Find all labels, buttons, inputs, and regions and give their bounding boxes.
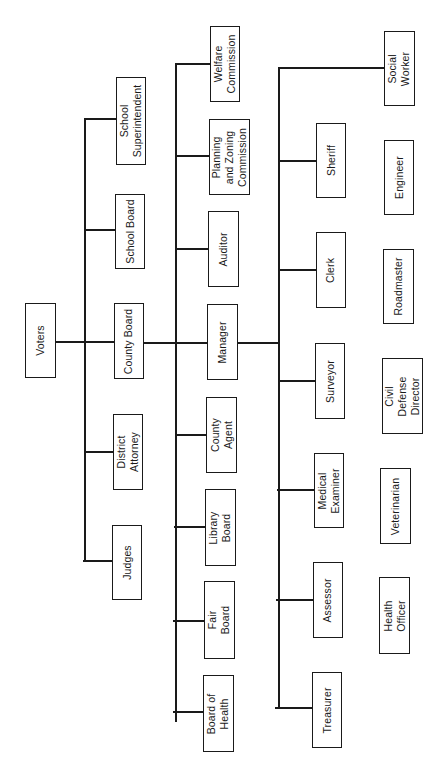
connector-trunk3 [278, 67, 280, 709]
connector-trunk2-fair [173, 620, 204, 622]
node-label: Medical Examiner [316, 468, 342, 513]
node-school-board: School Board [115, 194, 145, 269]
node-label: Treasurer [321, 687, 334, 733]
connector-trunk3-clerk [278, 269, 316, 271]
connector-trunk2-library [174, 526, 205, 528]
node-welfare-commission: Welfare Commission [210, 26, 240, 102]
node-board-of-health: Board of Health [203, 675, 234, 752]
node-engineer: Engineer [384, 140, 414, 215]
node-medical-examiner: Medical Examiner [314, 453, 344, 528]
org-chart: VotersSchool SuperintendentSchool BoardC… [0, 0, 437, 774]
node-label: Fair Board [207, 606, 233, 635]
connector-trunk2-manager [175, 342, 207, 344]
node-label: Sheriff [325, 145, 338, 176]
connector-trunk2-health [173, 711, 203, 713]
node-label: Assessor [322, 578, 335, 622]
connector-trunk2 [175, 63, 177, 722]
connector-manager-to-trunk3 [238, 342, 279, 344]
node-fair-board: Fair Board [204, 581, 235, 659]
node-label: Roadmaster [392, 257, 405, 315]
node-planning-zoning-commission: Planning and Zoning Commission [209, 119, 250, 195]
node-school-superintendent: School Superintendent [116, 77, 146, 165]
node-label: Social Worker [387, 51, 413, 85]
node-label: County Board [123, 308, 136, 373]
connector-trunk3-surveyor [278, 380, 315, 382]
node-label: District Attorney [115, 432, 141, 472]
node-health-officer: Health Officer [379, 577, 410, 654]
node-label: Engineer [393, 156, 406, 199]
connector-trunk1-county-board [84, 341, 115, 343]
connector-trunk3-social-worker [278, 67, 384, 69]
node-district-attorney: District Attorney [113, 414, 143, 490]
connector-trunk3-medical-examiner [277, 489, 314, 491]
node-label: Auditor [217, 232, 230, 266]
node-county-board: County Board [114, 303, 144, 379]
connector-county-board-to-trunk2 [144, 342, 176, 344]
connector-trunk3-treasurer [275, 707, 312, 709]
connector-trunk1 [84, 118, 86, 562]
node-label: Veterinarian [389, 477, 402, 534]
node-label: Manager [216, 321, 229, 363]
node-label: School Superintendent [118, 85, 144, 158]
node-label: Judges [121, 545, 134, 579]
node-label: County Agent [209, 418, 235, 452]
node-label: School Board [124, 199, 137, 263]
node-label: Board of Health [206, 693, 232, 734]
node-county-agent: County Agent [206, 397, 237, 473]
node-roadmaster: Roadmaster [383, 249, 414, 324]
node-social-worker: Social Worker [384, 31, 415, 106]
node-judges: Judges [112, 525, 142, 600]
node-sheriff: Sheriff [316, 123, 346, 198]
node-label: Surveyor [324, 360, 337, 403]
node-library-board: Library Board [205, 489, 236, 566]
node-auditor: Auditor [208, 211, 239, 287]
connector-trunk2-county-agent [175, 434, 206, 436]
connector-trunk1-district-attorney [84, 451, 114, 453]
node-surveyor: Surveyor [315, 343, 345, 419]
node-clerk: Clerk [316, 232, 346, 308]
node-label: Voters [34, 325, 47, 355]
node-label: Health Officer [382, 600, 408, 631]
connector-trunk2-planning [175, 155, 209, 157]
node-assessor: Assessor [313, 562, 343, 638]
node-label: Welfare Commission [212, 35, 238, 94]
node-label: Library Board [208, 511, 234, 544]
node-treasurer: Treasurer [312, 672, 342, 748]
node-voters: Voters [25, 303, 56, 378]
connector-trunk1-judges [83, 560, 113, 562]
connector-trunk1-school-board [84, 229, 115, 231]
node-label: Clerk [324, 257, 337, 282]
node-manager: Manager [207, 304, 238, 380]
connector-trunk1-school-superintendent [84, 118, 116, 120]
connector-trunk3-sheriff [278, 160, 316, 162]
connector-trunk2-auditor [175, 248, 208, 250]
connector-voters-to-trunk1 [55, 341, 85, 343]
node-label: Planning and Zoning Commission [210, 128, 249, 187]
connector-trunk2-welfare [175, 63, 210, 65]
node-veterinarian: Veterinarian [380, 468, 411, 544]
node-label: Civil Defense Director [383, 376, 422, 416]
connector-trunk3-assessor [276, 599, 313, 601]
node-civil-defense-director: Civil Defense Director [382, 358, 423, 434]
